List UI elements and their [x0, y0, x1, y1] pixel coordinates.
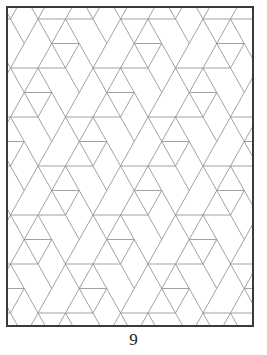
weave-pattern-figure	[8, 8, 252, 325]
page-number: 9	[0, 330, 267, 350]
pattern-frame	[6, 6, 254, 327]
